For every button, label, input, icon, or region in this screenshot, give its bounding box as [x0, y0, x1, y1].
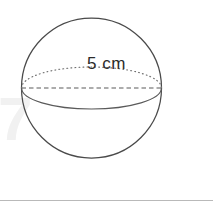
dimension-label: 5 cm: [0, 53, 213, 75]
sphere-figure: 7 5 cm: [0, 0, 213, 215]
watermark-seven-icon: 7: [0, 84, 32, 153]
sphere-diagram-canvas: 7: [0, 0, 213, 215]
equator-front-arc-solid: [22, 88, 162, 109]
